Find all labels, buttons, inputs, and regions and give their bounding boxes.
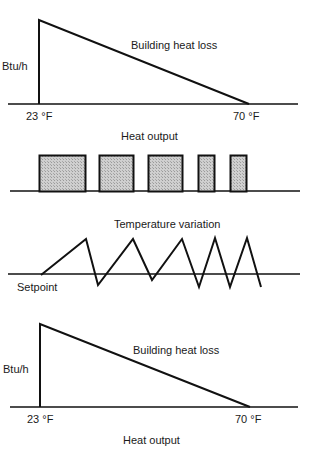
- temperature-zigzag: [41, 238, 261, 287]
- heat-output-bar: [40, 156, 86, 192]
- panel-title: Temperature variation: [114, 218, 220, 230]
- x-right-label: 70 °F: [235, 413, 262, 425]
- panel-title: Heat output: [121, 130, 178, 142]
- heat-loss-panel-bottom: Building heat loss Btu/h 23 °F 70 °F Hea…: [3, 324, 298, 446]
- x-right-label: 70 °F: [233, 110, 260, 122]
- temperature-variation-panel: Temperature variation Setpoint: [8, 218, 300, 293]
- setpoint-label: Setpoint: [17, 281, 57, 293]
- y-axis-label: Btu/h: [2, 60, 28, 72]
- heat-loss-triangle: [39, 20, 249, 104]
- heat-output-caption: Heat output: [123, 434, 180, 446]
- heat-output-bar: [149, 156, 183, 192]
- heat-output-bar: [199, 156, 215, 192]
- x-left-label: 23 °F: [27, 413, 54, 425]
- diagram-canvas: Building heat loss Btu/h 23 °F 70 °F Hea…: [0, 0, 310, 452]
- heat-loss-panel-top: Building heat loss Btu/h 23 °F 70 °F: [2, 20, 298, 122]
- heat-output-bar: [100, 156, 134, 192]
- heat-loss-triangle: [40, 324, 250, 407]
- y-axis-label: Btu/h: [3, 363, 29, 375]
- heat-output-bar: [231, 156, 247, 192]
- x-left-label: 23 °F: [26, 110, 53, 122]
- panel-title: Building heat loss: [131, 39, 218, 51]
- heat-output-panel: Heat output: [10, 130, 300, 192]
- panel-title: Building heat loss: [133, 344, 220, 356]
